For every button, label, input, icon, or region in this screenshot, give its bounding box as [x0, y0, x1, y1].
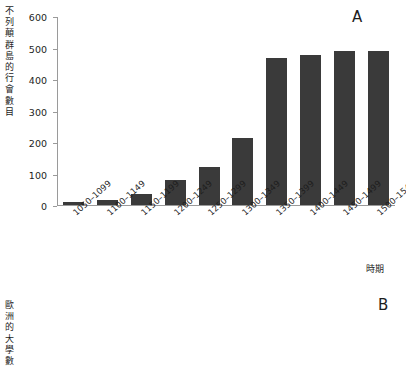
panel-a-plot-area: 0100200300400500600	[57, 17, 395, 206]
y-axis-tick-label: 400	[29, 75, 47, 86]
y-axis-tick: 300	[53, 112, 57, 113]
y-axis-tick-label: 0	[41, 201, 47, 212]
panel-a-y-axis-label: 不列顛群島的行會數目	[2, 6, 16, 118]
panel-a-x-axis-title: 時期	[366, 262, 384, 275]
y-axis-tick-label: 100	[29, 169, 47, 180]
y-axis-tick: 400	[53, 80, 57, 81]
chart-panel-a: 不列顛群島的行會數目 A 0100200300400500600 時期 1050…	[0, 0, 406, 290]
y-axis-tick: 200	[53, 143, 57, 144]
y-axis-tick: 0	[53, 206, 57, 207]
y-axis-tick: 500	[53, 49, 57, 50]
panel-a-y-axis-line	[57, 17, 58, 206]
y-axis-tick-label: 600	[29, 12, 47, 23]
panel-b-letter: B	[378, 296, 388, 314]
y-axis-tick: 100	[53, 175, 57, 176]
y-axis-tick-label: 300	[29, 106, 47, 117]
y-axis-tick: 600	[53, 17, 57, 18]
panel-b-y-axis-label: 歐洲的大學數	[2, 300, 16, 367]
chart-panel-b: 607080	[0, 290, 406, 367]
y-axis-tick-label: 500	[29, 43, 47, 54]
y-axis-tick-label: 200	[29, 138, 47, 149]
